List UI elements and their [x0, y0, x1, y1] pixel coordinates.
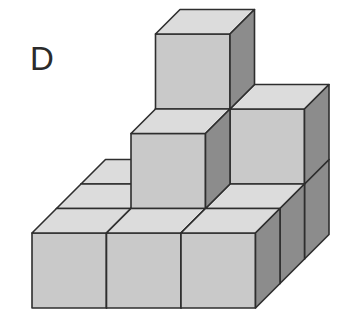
cube-front-face: [156, 34, 231, 109]
cube-front-face: [230, 109, 305, 184]
unit-cube: [156, 10, 255, 110]
unit-cube: [131, 109, 230, 209]
cube-front-face: [131, 134, 206, 209]
unit-cube: [181, 209, 280, 309]
cube-front-face: [181, 233, 256, 308]
cube-front-face: [107, 233, 182, 308]
unit-cube: [230, 85, 329, 185]
cube-front-face: [32, 233, 107, 308]
cube-stack-diagram: [0, 0, 353, 322]
